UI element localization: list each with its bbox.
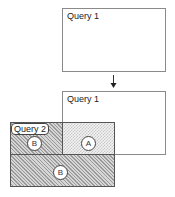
vertical-divider xyxy=(62,122,63,155)
query2-label: Query 2 xyxy=(11,123,49,135)
query1-label-top: Query 1 xyxy=(67,11,99,21)
circle-b-top-left: B xyxy=(27,136,42,151)
down-arrow-icon xyxy=(109,75,118,89)
circle-b-bottom: B xyxy=(53,165,68,180)
circle-a: A xyxy=(81,136,96,151)
query1-box-top: Query 1 xyxy=(62,8,166,72)
query1-label-bottom: Query 1 xyxy=(67,94,99,104)
horizontal-divider xyxy=(10,154,115,155)
